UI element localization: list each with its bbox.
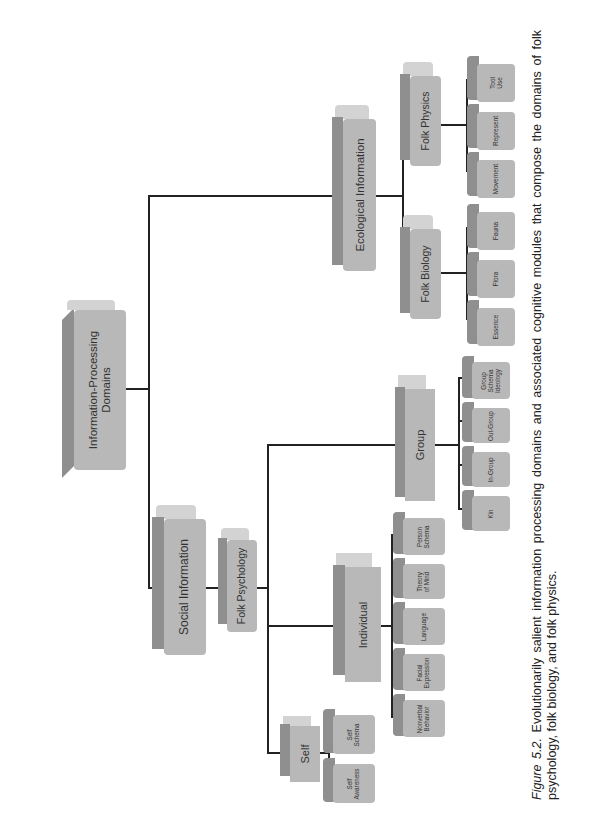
leaf-kin: Kin <box>462 486 512 532</box>
leaf-in-group: In-Group <box>462 442 512 488</box>
leaf-label: Fauna <box>492 222 499 240</box>
box-side <box>395 387 405 497</box>
leaf-flora: Flora <box>467 248 517 298</box>
connector <box>440 124 468 126</box>
node-label: Individual <box>357 601 369 647</box>
leaf-label: Movement <box>492 164 499 194</box>
leaf-label: Language <box>421 612 428 640</box>
leaf-label: Tool Use <box>489 72 503 94</box>
connector <box>375 195 403 197</box>
node-label: Ecological Information <box>353 138 366 251</box>
box-face: Movement <box>477 160 515 198</box>
leaf-represent: Represent <box>467 100 517 150</box>
leaf-label: In-Group <box>488 457 495 482</box>
node-social-information: Social Information <box>152 505 207 657</box>
leaf-theory-of-mind: Theory of Mind <box>393 554 448 600</box>
node-folk-psychology: Folk Psychology <box>218 528 258 633</box>
box-face: Folk Physics <box>410 76 441 166</box>
box-face: Information-Processing Domains <box>74 310 126 470</box>
box-face: Individual <box>345 567 381 682</box>
box-side <box>62 308 74 478</box>
connector <box>458 377 460 509</box>
connector <box>435 444 460 446</box>
connector <box>148 195 150 588</box>
leaf-label: Out-Group <box>488 411 495 441</box>
leaf-out-group: Out-Group <box>462 398 512 444</box>
node-folk-physics: Folk Physics <box>400 62 442 168</box>
box-face: Ecological Information <box>343 119 376 271</box>
node-ecological-information: Ecological Information <box>332 105 377 273</box>
box-side <box>332 117 343 265</box>
leaf-label: Facial Expression <box>417 655 431 691</box>
connector <box>267 444 269 754</box>
box-face: Language <box>403 608 445 645</box>
box-side <box>333 565 345 675</box>
connector <box>148 195 348 197</box>
leaf-movement: Movement <box>467 148 517 198</box>
figure-label: Figure 5.2. <box>530 738 544 800</box>
box-face: Out-Group <box>472 408 510 443</box>
leaf-facial-expression: Facial Expression <box>393 644 448 692</box>
box-face: Folk Biology <box>410 229 441 319</box>
leaf-label: Flora <box>492 272 499 287</box>
node-individual: Individual <box>333 553 383 683</box>
leaf-label: Represent <box>492 116 499 146</box>
leaf-label: Essence <box>492 315 499 340</box>
box-side <box>152 517 164 649</box>
box-face: Group Schema Ideology <box>472 362 510 399</box>
box-face: Tool Use <box>477 64 515 102</box>
box-side <box>218 538 227 624</box>
node-label: Information-Processing Domains <box>87 330 112 450</box>
box-face: Self Schema <box>333 715 375 754</box>
box-face: Self <box>290 726 320 782</box>
leaf-label: Self Awareness <box>347 766 361 802</box>
leaf-label: Theory of Mind <box>417 571 431 593</box>
node-label: Social Information <box>178 539 191 635</box>
box-face: Facial Expression <box>403 654 445 691</box>
leaf-tool-use: Tool Use <box>467 52 517 102</box>
node-information-processing-domains: Information-Processing Domains <box>62 300 127 472</box>
box-face: Theory of Mind <box>403 564 445 599</box>
leaf-group-schema-ideology: Group Schema Ideology <box>462 352 512 400</box>
box-side <box>280 724 290 776</box>
box-face: Person Schema <box>403 518 445 555</box>
figure-caption: Figure 5.2. Evolutionarily salient infor… <box>530 30 560 800</box>
leaf-self-schema: Self Schema <box>323 705 378 755</box>
node-label: Folk Psychology <box>236 548 248 624</box>
box-face: Social Information <box>164 519 206 655</box>
leaf-label: Person Schema <box>417 523 431 551</box>
node-group: Group <box>395 375 437 503</box>
leaf-label: Group Schema Ideology <box>481 367 502 395</box>
leaf-language: Language <box>393 598 448 646</box>
box-side <box>400 74 410 160</box>
node-label: Group <box>414 430 426 461</box>
connector <box>125 388 149 390</box>
box-face: Flora <box>477 260 515 298</box>
leaf-essence: Essence <box>467 296 517 346</box>
node-self: Self <box>280 716 322 782</box>
leaf-person-schema: Person Schema <box>393 508 448 556</box>
node-folk-biology: Folk Biology <box>400 215 442 321</box>
node-label: Folk Physics <box>420 92 432 151</box>
leaf-nonverbal-behavior: Nonverbal Behavior <box>393 690 448 738</box>
node-label: Self <box>299 745 311 764</box>
caption-text: Evolutionarily salient information proce… <box>530 30 559 800</box>
leaf-fauna: Fauna <box>467 200 517 250</box>
box-face: Folk Psychology <box>227 540 257 632</box>
box-top <box>67 300 115 310</box>
box-face: Represent <box>477 112 515 150</box>
box-face: Nonverbal Behavior <box>403 700 445 737</box>
box-face: Kin <box>472 496 510 531</box>
box-face: In-Group <box>472 452 510 487</box>
connector <box>267 444 407 446</box>
leaf-label: Kin <box>488 509 495 518</box>
box-face: Group <box>405 389 435 501</box>
box-face: Self Awareness <box>333 764 375 803</box>
leaf-label: Self Schema <box>347 722 361 748</box>
connector <box>440 272 468 274</box>
box-face: Essence <box>477 308 515 346</box>
box-face: Fauna <box>477 212 515 250</box>
leaf-self-awareness: Self Awareness <box>323 754 378 804</box>
leaf-label: Nonverbal Behavior <box>417 702 431 736</box>
node-label: Folk Biology <box>420 245 432 302</box>
